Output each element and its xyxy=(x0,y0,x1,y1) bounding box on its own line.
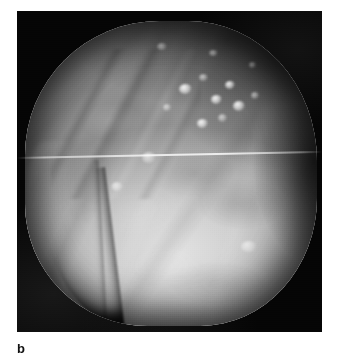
moon-body xyxy=(25,21,317,326)
image-plate xyxy=(17,11,322,332)
figure-panel: b xyxy=(0,0,340,363)
limb-darkening xyxy=(25,21,317,326)
panel-label: b xyxy=(17,341,25,357)
moon-body-wrapper xyxy=(17,11,322,332)
